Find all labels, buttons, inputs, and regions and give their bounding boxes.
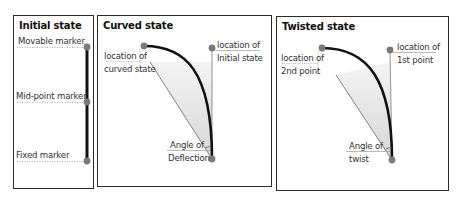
- label-initial-location-1: location of: [217, 39, 260, 51]
- label-angle-twist-2: twist: [349, 153, 369, 165]
- curved-state-dot: [141, 43, 148, 50]
- label-angle-deflection-2: Deflection: [168, 152, 210, 164]
- label-fixed-marker: Fixed marker: [16, 149, 69, 161]
- label-movable-marker: Movable marker: [18, 35, 85, 47]
- label-initial-location-2: Initial state: [217, 52, 263, 64]
- label-second-point-2: 2nd point: [281, 65, 320, 77]
- label-curved-location-1: location of: [104, 50, 147, 62]
- label-angle-deflection-1: Angle of: [170, 139, 204, 151]
- label-second-point-1: location of: [281, 52, 324, 64]
- label-first-point-1: location of: [397, 41, 440, 53]
- label-midpoint-marker: Mid-point marker: [16, 90, 86, 102]
- initial-state-dot: [209, 45, 216, 52]
- fixed-marker-dot: [84, 158, 91, 165]
- second-point-dot: [319, 45, 326, 52]
- label-angle-twist-1: Angle of: [349, 140, 383, 152]
- twist-base-dot: [389, 157, 396, 164]
- initial-state-graphic: [17, 44, 90, 165]
- label-first-point-2: 1st point: [397, 54, 433, 66]
- label-curved-location-2: curved state: [104, 63, 156, 75]
- first-point-dot: [387, 47, 394, 54]
